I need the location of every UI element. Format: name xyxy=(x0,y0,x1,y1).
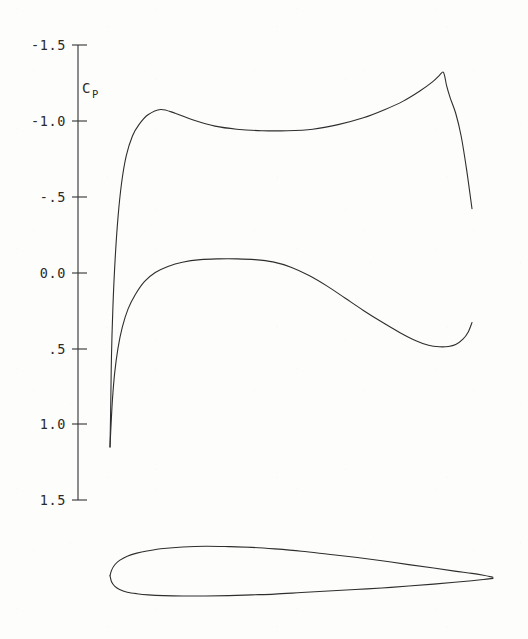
airfoil-upper-surface xyxy=(110,546,493,577)
axis-tick-label-6: 1.5 xyxy=(40,492,66,508)
cp-axis-title: C xyxy=(82,80,90,96)
axis-tick-labels: -1.5-1.0-.50.0.51.01.5 xyxy=(31,37,66,508)
cp-plot-svg: -1.5-1.0-.50.0.51.01.5 C P xyxy=(0,0,528,639)
axis-tick-label-0: -1.5 xyxy=(31,37,66,53)
axis-tick-label-5: 1.0 xyxy=(40,416,66,432)
axis-tick-label-2: -.5 xyxy=(40,189,66,205)
figure-page: -1.5-1.0-.50.0.51.01.5 C P xyxy=(0,0,528,639)
axis-tick-label-4: .5 xyxy=(49,341,66,357)
axis-tick-label-1: -1.0 xyxy=(31,113,66,129)
airfoil-lower-surface xyxy=(110,576,493,596)
cp-curve-upper-surface xyxy=(110,72,472,447)
axis-tick-marks xyxy=(72,45,87,500)
cp-axis-title-subscript: P xyxy=(92,88,98,100)
cp-curve-lower-surface xyxy=(110,259,472,447)
axis-tick-label-3: 0.0 xyxy=(40,265,66,281)
